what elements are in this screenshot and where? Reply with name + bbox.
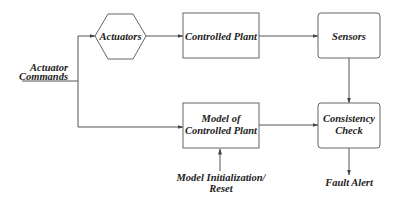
node-consistency-check: Consistency Check [318,103,380,148]
node-controlled-plant: Controlled Plant [183,13,259,58]
consistency-label-line1: Consistency [323,113,375,124]
actuator-commands-label-line2: Commands [19,71,68,82]
model-label-line2: Controlled Plant [185,125,258,136]
model-init-label-line2: Reset [208,183,233,194]
sensors-label: Sensors [332,31,366,42]
node-actuators: Actuators [95,14,146,59]
model-label-line1: Model of [201,113,242,124]
model-init-label-line1: Model Initialization/ [176,172,267,183]
controlled-plant-label: Controlled Plant [185,31,258,42]
node-sensors: Sensors [318,13,380,58]
actuators-label: Actuators [98,31,141,42]
fault-alert-label: Fault Alert [324,177,374,188]
consistency-label-line2: Check [335,125,363,136]
block-diagram: Actuators Controlled Plant Sensors Model… [0,0,401,203]
node-model-of-controlled-plant: Model of Controlled Plant [183,103,259,148]
